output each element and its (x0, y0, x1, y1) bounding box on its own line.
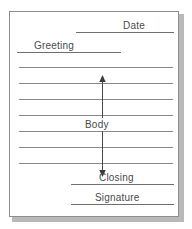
signature-line[interactable] (71, 204, 174, 205)
date-line[interactable] (76, 32, 174, 33)
greeting-label: Greeting (34, 40, 74, 51)
closing-line[interactable] (71, 184, 174, 185)
closing-label: Closing (99, 172, 134, 183)
letter-format-diagram: Date Greeting Body Closing Signature (0, 0, 192, 229)
body-label: Body (81, 118, 113, 131)
body-line[interactable] (19, 67, 173, 68)
letter-page: Date Greeting Body Closing Signature (9, 11, 179, 217)
date-label: Date (123, 20, 145, 31)
greeting-line[interactable] (17, 52, 121, 53)
signature-label: Signature (95, 192, 140, 203)
